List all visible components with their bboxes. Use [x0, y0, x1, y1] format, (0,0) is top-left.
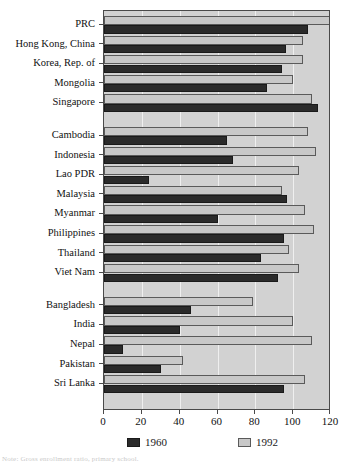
category-label: PRC [75, 18, 95, 29]
value-tick-label: 100 [284, 415, 301, 427]
value-tick [103, 410, 104, 414]
bar-1960 [104, 176, 149, 184]
bars-layer [104, 11, 329, 409]
legend-swatch-1992-icon [238, 438, 251, 447]
category-axis: PRCHong Kong, ChinaKorea, Rep. ofMongoli… [0, 10, 99, 410]
category-label: Malaysia [57, 188, 96, 199]
category-label: Sri Lanka [54, 377, 95, 388]
bar-1992 [104, 336, 312, 345]
bar-1992 [104, 186, 282, 195]
bar-1960 [104, 274, 278, 282]
bar-1992 [104, 36, 303, 45]
legend-label: 1960 [145, 436, 167, 448]
legend-item: 1960 [127, 436, 167, 448]
legend-swatch-1960-icon [127, 438, 140, 447]
chart-legend: 19601992 [103, 436, 330, 452]
category-label: Mongolia [54, 77, 95, 88]
value-tick [217, 410, 218, 414]
bar-chart: PRCHong Kong, ChinaKorea, Rep. ofMongoli… [0, 0, 351, 465]
bar-1960 [104, 365, 161, 373]
value-tick [292, 410, 293, 414]
bar-1960 [104, 345, 123, 353]
bar-1960 [104, 25, 308, 33]
category-label: Singapore [52, 96, 95, 107]
bar-1960 [104, 195, 287, 203]
bar-1992 [104, 316, 293, 325]
category-label: Myanmar [54, 207, 95, 218]
bar-1960 [104, 84, 267, 92]
value-axis: 020406080100120 [103, 410, 330, 432]
bar-1960 [104, 104, 318, 112]
bar-1960 [104, 326, 180, 334]
bar-1992 [104, 75, 293, 84]
bar-1960 [104, 254, 261, 262]
category-label: Cambodia [52, 129, 95, 140]
category-label: Viet Nam [55, 266, 95, 277]
category-label: Hong Kong, China [15, 38, 95, 49]
bar-1992 [104, 264, 299, 273]
category-label: Philippines [48, 227, 95, 238]
plot-area [103, 10, 330, 410]
bar-1960 [104, 136, 227, 144]
value-tick-label: 40 [173, 415, 184, 427]
bar-1960 [104, 156, 233, 164]
bar-1960 [104, 45, 286, 53]
value-tick [179, 410, 180, 414]
value-tick-label: 120 [322, 415, 339, 427]
bar-1992 [104, 16, 330, 25]
bar-1960 [104, 385, 284, 393]
category-label: Bangladesh [46, 299, 95, 310]
value-tick [329, 410, 330, 414]
chart-footnote: Note: Gross enrollment ratio, primary sc… [2, 455, 139, 463]
bar-1992 [104, 245, 289, 254]
bar-1992 [104, 166, 299, 175]
category-label: Indonesia [54, 149, 95, 160]
category-label: India [73, 318, 95, 329]
bar-1992 [104, 94, 312, 103]
bar-1992 [104, 356, 183, 365]
value-tick-label: 60 [211, 415, 222, 427]
value-tick-label: 80 [249, 415, 260, 427]
value-tick-label: 0 [100, 415, 106, 427]
value-tick [141, 410, 142, 414]
value-tick-label: 20 [135, 415, 146, 427]
bar-1992 [104, 297, 253, 306]
legend-label: 1992 [256, 436, 278, 448]
bar-1992 [104, 147, 316, 156]
category-label: Pakistan [59, 358, 95, 369]
bar-1992 [104, 127, 308, 136]
category-label: Korea, Rep. of [33, 57, 95, 68]
legend-item: 1992 [238, 436, 278, 448]
category-label: Thailand [58, 247, 95, 258]
bar-1960 [104, 306, 191, 314]
bar-1960 [104, 215, 218, 223]
category-label: Nepal [70, 338, 95, 349]
category-label: Lao PDR [56, 168, 95, 179]
bar-1992 [104, 205, 305, 214]
bar-1992 [104, 55, 303, 64]
bar-1960 [104, 234, 284, 242]
bar-1960 [104, 65, 282, 73]
value-tick [254, 410, 255, 414]
bar-1992 [104, 225, 314, 234]
bar-1992 [104, 375, 305, 384]
